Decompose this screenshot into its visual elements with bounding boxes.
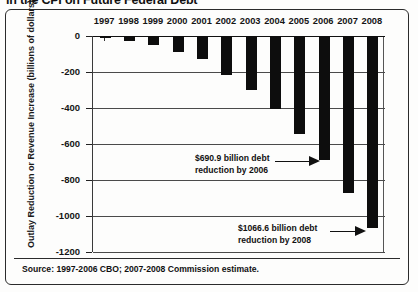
bar-2004 <box>270 36 281 109</box>
annotation-2006-leader <box>275 161 310 162</box>
annotation-2006-arrow-icon <box>309 156 320 166</box>
gridline <box>93 144 385 145</box>
gridline <box>93 108 385 109</box>
bar-1999 <box>148 36 159 45</box>
annotation-2006: $690.9 billion debt reduction by 2006 <box>195 152 270 177</box>
gridline <box>93 36 385 37</box>
bar-2003 <box>246 36 257 90</box>
gridline <box>93 72 385 73</box>
y-tick-label: -1000 <box>26 210 80 221</box>
bar-2006 <box>319 36 330 160</box>
gridline <box>93 216 385 217</box>
annotation-2008: $1066.6 billion debt reduction by 2008 <box>238 222 317 247</box>
x-tick-label: 2008 <box>355 16 389 26</box>
annotation-2006-line1: $690.9 billion debt <box>195 152 270 164</box>
plot-area <box>92 36 384 252</box>
y-tick-label: -800 <box>26 174 80 185</box>
bar-2001 <box>197 36 208 59</box>
annotation-2008-leader <box>330 231 356 232</box>
bar-2008 <box>367 36 378 228</box>
annotation-2006-line2: reduction by 2006 <box>195 164 270 176</box>
bar-1998 <box>124 36 135 41</box>
y-tick-label: -600 <box>26 138 80 149</box>
bar-2005 <box>294 36 305 134</box>
source-note: Source: 1997-2006 CBO; 2007-2008 Commiss… <box>22 264 259 274</box>
annotation-2008-line2: reduction by 2008 <box>238 234 317 246</box>
bar-1997 <box>100 36 111 38</box>
bar-2007 <box>343 36 354 193</box>
annotation-2008-arrow-icon <box>355 226 366 236</box>
y-tick-label: 0 <box>26 30 80 41</box>
y-tick-label: -1200 <box>26 246 80 257</box>
y-tick-label: -400 <box>26 102 80 113</box>
gridline <box>93 252 385 253</box>
bar-2002 <box>221 36 232 75</box>
y-tick-label: -200 <box>26 66 80 77</box>
source-divider <box>14 258 400 259</box>
figure-root: in the CPI on Future Federal Debt Outlay… <box>0 0 418 292</box>
annotation-2008-line1: $1066.6 billion debt <box>238 222 317 234</box>
y-tick-mark <box>86 252 92 253</box>
gridline <box>93 180 385 181</box>
bar-2000 <box>173 36 184 52</box>
figure-title: in the CPI on Future Federal Debt <box>6 0 306 7</box>
